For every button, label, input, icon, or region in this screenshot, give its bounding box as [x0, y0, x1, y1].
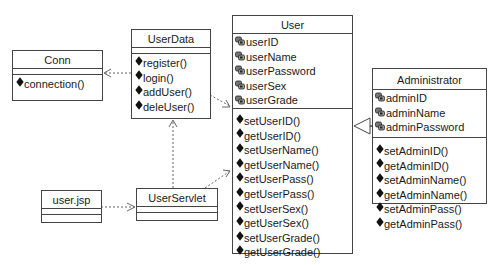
- private-attribute-icon: [375, 92, 386, 102]
- public-operation-icon: [236, 172, 243, 182]
- operation-item: addUser(): [135, 85, 210, 100]
- class-userdata[interactable]: UserData register()login()addUser()deleU…: [131, 29, 211, 119]
- attribute-name: adminPassword: [386, 120, 464, 135]
- operation-name: getAdminID(): [384, 159, 449, 174]
- private-attribute-icon: [375, 121, 386, 131]
- attributes-compartment: [42, 209, 101, 215]
- dependency-userdata-user: [210, 95, 230, 107]
- operation-name: login(): [143, 71, 174, 86]
- public-operation-icon: [376, 202, 383, 212]
- public-operation-icon: [376, 188, 383, 198]
- operation-name: setUserName(): [244, 143, 319, 158]
- operation-name: setAdminName(): [384, 173, 467, 188]
- operation-item: setAdminName(): [376, 173, 486, 188]
- operation-name: register(): [143, 56, 187, 71]
- attributes-compartment: adminIDadminNameadminPassword: [373, 90, 486, 138]
- public-operation-icon: [236, 216, 243, 226]
- operation-item: getUserName(): [236, 158, 352, 173]
- public-operation-icon: [376, 159, 383, 169]
- public-operation-icon: [236, 202, 243, 212]
- operation-item: login(): [135, 71, 210, 86]
- operation-name: getAdminName(): [384, 188, 467, 203]
- operation-item: setUserSex(): [236, 202, 352, 217]
- attribute-name: userSex: [246, 79, 286, 94]
- private-attribute-icon: [235, 36, 246, 46]
- class-conn[interactable]: Conn connection(): [12, 50, 103, 101]
- attribute-name: userPassword: [246, 64, 316, 79]
- operation-name: getAdminPass(): [384, 217, 462, 232]
- public-operation-icon: [236, 231, 243, 241]
- class-administrator[interactable]: Administrator adminIDadminNameadminPassw…: [372, 68, 487, 204]
- attribute-item: userGrade: [235, 93, 352, 108]
- attribute-item: userPassword: [235, 64, 352, 79]
- class-user[interactable]: User userIDuserNameuserPassworduserSexus…: [232, 15, 353, 254]
- class-userjsp[interactable]: user.jsp: [41, 190, 102, 223]
- public-operation-icon: [236, 129, 243, 139]
- public-operation-icon: [236, 143, 243, 153]
- attribute-name: userID: [246, 35, 278, 50]
- dependency-userdata-conn: [104, 69, 131, 77]
- attribute-name: adminName: [386, 106, 445, 121]
- class-userservlet[interactable]: UserServlet: [136, 188, 218, 221]
- operation-name: setUserSex(): [244, 202, 308, 217]
- dependency-userservlet-user: [205, 170, 230, 188]
- operation-item: setAdminPass(): [376, 202, 486, 217]
- operation-name: setUserGrade(): [244, 231, 320, 246]
- attribute-item: userID: [235, 35, 352, 50]
- operation-item: setUserName(): [236, 143, 352, 158]
- operation-item: getUserSex(): [236, 216, 352, 231]
- dependency-userservlet-userdata: [169, 120, 177, 188]
- attribute-item: userName: [235, 50, 352, 65]
- public-operation-icon: [376, 144, 383, 154]
- operations-compartment: register()login()addUser()deleUser(): [132, 54, 210, 114]
- private-attribute-icon: [235, 51, 246, 61]
- operation-item: setUserID(): [236, 114, 352, 129]
- operations-compartment: connection(): [13, 75, 102, 92]
- operation-name: setAdminPass(): [384, 202, 462, 217]
- generalization-administrator-user: [354, 118, 372, 134]
- operation-item: getAdminID(): [376, 159, 486, 174]
- public-operation-icon: [135, 85, 142, 95]
- public-operation-icon: [135, 71, 142, 81]
- class-name: User: [233, 16, 352, 34]
- class-name: Conn: [13, 51, 102, 69]
- operation-item: getAdminPass(): [376, 217, 486, 232]
- class-name: Administrator: [373, 69, 486, 90]
- class-name: user.jsp: [42, 191, 101, 209]
- operation-name: connection(): [24, 77, 85, 92]
- public-operation-icon: [16, 77, 23, 87]
- dependency-userjsp-userservlet: [101, 203, 135, 211]
- operation-name: getUserSex(): [244, 216, 309, 231]
- operation-name: getUserGrade(): [244, 245, 320, 260]
- private-attribute-icon: [235, 95, 246, 105]
- operation-item: setAdminID(): [376, 144, 486, 159]
- operation-item: getAdminName(): [376, 188, 486, 203]
- operations-compartment: setAdminID()getAdminID()setAdminName()ge…: [373, 138, 486, 232]
- attribute-item: adminPassword: [375, 120, 486, 135]
- private-attribute-icon: [235, 80, 246, 90]
- attribute-name: userGrade: [246, 93, 298, 108]
- public-operation-icon: [236, 187, 243, 197]
- attribute-item: userSex: [235, 79, 352, 94]
- operation-item: setUserGrade(): [236, 231, 352, 246]
- private-attribute-icon: [235, 65, 246, 75]
- operation-item: connection(): [16, 77, 102, 92]
- operation-name: setUserPass(): [244, 172, 314, 187]
- operation-item: setUserPass(): [236, 172, 352, 187]
- operation-name: addUser(): [143, 85, 192, 100]
- public-operation-icon: [236, 158, 243, 168]
- public-operation-icon: [135, 100, 142, 110]
- private-attribute-icon: [375, 107, 386, 117]
- attribute-name: adminID: [386, 91, 427, 106]
- operation-name: setAdminID(): [384, 144, 448, 159]
- class-name: UserData: [132, 30, 210, 48]
- attribute-name: userName: [246, 50, 297, 65]
- class-name: UserServlet: [137, 189, 217, 207]
- operation-name: getUserName(): [244, 158, 319, 173]
- public-operation-icon: [135, 56, 142, 66]
- operation-item: getUserPass(): [236, 187, 352, 202]
- operation-item: getUserGrade(): [236, 245, 352, 260]
- operation-item: register(): [135, 56, 210, 71]
- operation-name: getUserID(): [244, 129, 301, 144]
- operation-item: deleUser(): [135, 100, 210, 115]
